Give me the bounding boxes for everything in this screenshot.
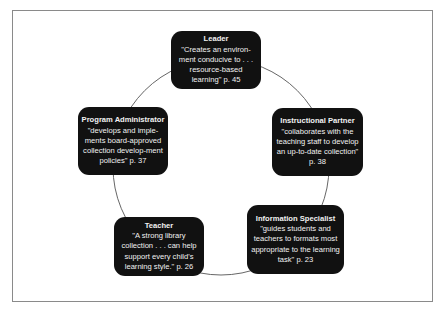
- node-title: Information Specialist: [250, 214, 341, 224]
- node-title: Instructional Partner: [275, 116, 360, 126]
- node-information-specialist: Information Specialist "guides students …: [247, 205, 344, 274]
- node-quote: "develops and imple-ments board-approved…: [81, 126, 165, 167]
- node-quote: "collaborates with the teaching staff to…: [275, 127, 360, 168]
- node-quote: "A strong library collection . . . can h…: [117, 231, 201, 272]
- node-instructional-partner: Instructional Partner "collaborates with…: [272, 108, 363, 176]
- node-quote: "Creates an environ-ment conducive to . …: [174, 45, 258, 86]
- node-teacher: Teacher "A strong library collection . .…: [114, 217, 204, 276]
- node-title: Teacher: [117, 221, 201, 231]
- node-title: Program Administrator: [81, 115, 165, 125]
- node-program-administrator: Program Administrator "develops and impl…: [78, 107, 168, 175]
- node-leader: Leader "Creates an environ-ment conduciv…: [171, 31, 261, 89]
- node-title: Leader: [174, 34, 258, 44]
- node-quote: "guides students and teachers to formats…: [250, 224, 341, 265]
